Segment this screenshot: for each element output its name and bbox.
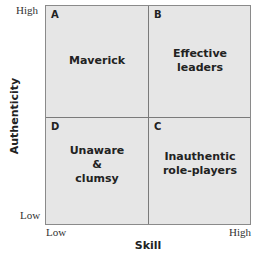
quadrant-letter: B [154, 9, 162, 20]
x-axis-title: Skill [45, 239, 251, 252]
y-axis-high-label: High [16, 4, 38, 16]
matrix-grid: A Maverick B Effective leaders D Unaware… [45, 5, 251, 225]
quadrant-letter: D [51, 121, 59, 132]
quadrant-label: Effective leaders [149, 47, 251, 75]
quadrant-c: C Inauthentic role-players [149, 118, 251, 228]
quadrant-label: Inauthentic role-players [149, 150, 251, 178]
y-axis-title: Authenticity [8, 78, 21, 154]
quadrant-label: Maverick [46, 54, 148, 68]
quadrant-a: A Maverick [46, 6, 148, 116]
quadrant-letter: A [51, 9, 59, 20]
quadrant-letter: C [154, 121, 161, 132]
x-axis-low-label: Low [46, 226, 66, 238]
x-axis-high-label: High [229, 226, 251, 238]
quadrant-b: B Effective leaders [149, 6, 251, 116]
y-axis-low-label: Low [20, 209, 40, 221]
quadrant-d: D Unaware & clumsy [46, 118, 148, 228]
quadrant-label: Unaware & clumsy [46, 144, 148, 186]
